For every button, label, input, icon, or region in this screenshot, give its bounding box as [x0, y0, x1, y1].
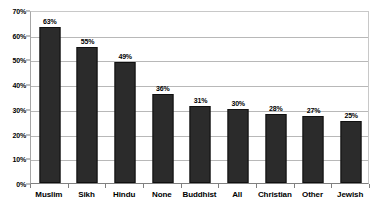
- y-axis: 0%10%20%30%40%50%60%70%: [0, 0, 30, 217]
- bar-value-label: 25%: [344, 112, 357, 119]
- x-axis-tick-mark: [105, 184, 106, 188]
- x-axis-tick-mark: [30, 184, 31, 188]
- bar-slot: 27%: [295, 12, 333, 183]
- bar[interactable]: [152, 94, 173, 183]
- x-axis-tick-mark: [218, 184, 219, 188]
- bar-slot: 25%: [332, 12, 370, 183]
- bar-slot: 30%: [219, 12, 257, 183]
- y-axis-tick-label: 50%: [13, 57, 26, 64]
- y-axis-tick-label: 70%: [13, 8, 26, 15]
- y-axis-tick-label: 30%: [13, 106, 26, 113]
- y-axis-tick-label: 0%: [16, 181, 26, 188]
- bar-value-label: 27%: [307, 107, 320, 114]
- bar-value-label: 49%: [118, 53, 131, 60]
- bar-value-label: 30%: [231, 100, 244, 107]
- bar-slot: 31%: [182, 12, 220, 183]
- bar[interactable]: [265, 114, 286, 183]
- x-axis-category-label: Hindu: [113, 190, 135, 199]
- x-axis-category-label: Muslim: [35, 190, 62, 199]
- bar[interactable]: [77, 47, 98, 183]
- x-axis-category-label: Jewish: [337, 190, 363, 199]
- plot-area: 63%55%49%36%31%30%28%27%25%: [30, 11, 369, 184]
- x-axis-tick-mark: [181, 184, 182, 188]
- bar-chart: 0%10%20%30%40%50%60%70% 63%55%49%36%31%3…: [0, 0, 378, 217]
- bar-series: 63%55%49%36%31%30%28%27%25%: [31, 12, 368, 183]
- x-axis-tick-mark: [294, 184, 295, 188]
- bar[interactable]: [341, 121, 362, 183]
- bar-slot: 49%: [106, 12, 144, 183]
- bar-slot: 28%: [257, 12, 295, 183]
- x-axis-ticks: [30, 184, 369, 189]
- x-axis-tick-mark: [68, 184, 69, 188]
- y-axis-tick-label: 20%: [13, 131, 26, 138]
- bar[interactable]: [115, 62, 136, 183]
- x-axis-category-label: Christian: [258, 190, 292, 199]
- x-axis-category-label: Sikh: [78, 190, 95, 199]
- bar-value-label: 36%: [156, 85, 169, 92]
- bar[interactable]: [190, 106, 211, 183]
- bar[interactable]: [39, 27, 60, 183]
- x-axis-category-label: Other: [302, 190, 323, 199]
- x-axis-labels: MuslimSikhHinduNoneBuddhistAllChristianO…: [30, 190, 369, 210]
- x-axis-category-label: Buddhist: [183, 190, 217, 199]
- x-axis-tick-mark: [256, 184, 257, 188]
- bar-value-label: 63%: [43, 18, 56, 25]
- x-axis-category-label: None: [152, 190, 172, 199]
- x-axis-category-label: All: [232, 190, 242, 199]
- bar-value-label: 55%: [81, 38, 94, 45]
- x-axis-tick-mark: [331, 184, 332, 188]
- x-axis-tick-mark: [369, 184, 370, 188]
- bar-value-label: 28%: [269, 105, 282, 112]
- bar[interactable]: [303, 116, 324, 183]
- bar-slot: 36%: [144, 12, 182, 183]
- x-axis-tick-mark: [143, 184, 144, 188]
- bar-slot: 63%: [31, 12, 69, 183]
- bar-value-label: 31%: [194, 97, 207, 104]
- bar-slot: 55%: [69, 12, 107, 183]
- y-axis-tick-label: 60%: [13, 32, 26, 39]
- bar[interactable]: [228, 109, 249, 183]
- y-axis-tick-label: 40%: [13, 82, 26, 89]
- y-axis-tick-label: 10%: [13, 156, 26, 163]
